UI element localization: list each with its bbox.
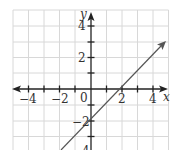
y-tick-label-neg2: −2 xyxy=(72,115,90,129)
x-tick-label-2: 2 xyxy=(118,92,126,106)
x-tick-label-4: 4 xyxy=(149,92,157,106)
coordinate-plane: y x 0 −4 −2 2 4 4 2 −2 −4 xyxy=(0,0,177,150)
x-tick-label-neg4: −4 xyxy=(19,92,37,106)
x-tick-label-neg2: −2 xyxy=(51,92,69,106)
y-axis xyxy=(88,12,95,150)
x-axis-label: x xyxy=(163,90,170,104)
y-tick-label-2: 2 xyxy=(78,51,86,65)
y-tick-label-neg4: −4 xyxy=(72,144,90,150)
axis-labels: y x 0 −4 −2 2 4 4 2 −2 −4 xyxy=(19,7,170,150)
origin-label: 0 xyxy=(80,91,88,105)
y-tick-label-4: 4 xyxy=(78,19,86,33)
